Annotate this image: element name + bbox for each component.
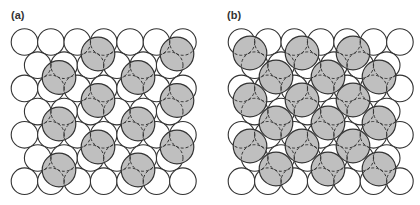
substrate-atom-icon <box>228 168 255 195</box>
substrate-atom-icon <box>170 168 197 195</box>
substrate-atom-icon <box>11 75 38 102</box>
substrate-atom-icon <box>117 29 144 56</box>
substrate-atom-icon <box>387 29 414 56</box>
substrate-atom-icon <box>11 168 38 195</box>
substrate-atom-icon <box>38 29 65 56</box>
panel-b <box>228 29 413 195</box>
substrate-atom-icon <box>11 122 38 149</box>
substrate-atom-icon <box>11 29 38 56</box>
figure: (a) (b) <box>0 0 420 205</box>
panel-a <box>11 29 196 195</box>
substrate-atom-icon <box>90 168 117 195</box>
packing-diagram <box>0 0 420 205</box>
